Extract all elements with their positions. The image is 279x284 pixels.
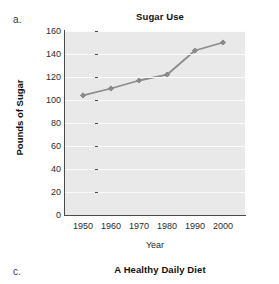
y-tick-label: 100: [35, 95, 61, 105]
x-tick-label: 2000: [206, 221, 240, 231]
y-tick-mark: [95, 169, 98, 170]
x-axis-title: Year: [65, 240, 245, 250]
y-tick-label: 80: [35, 118, 61, 128]
data-point-marker: [108, 86, 113, 91]
y-tick-label: 140: [35, 49, 61, 59]
gridline: [65, 123, 245, 124]
gridline: [65, 146, 245, 147]
chart-title: Sugar Use: [60, 11, 260, 22]
y-tick-mark: [95, 146, 98, 147]
y-tick-label: 160: [35, 26, 61, 36]
gridline: [65, 54, 245, 55]
y-tick-mark: [95, 123, 98, 124]
y-axis-title: Pounds of Sugar: [14, 63, 25, 173]
healthy-daily-diet-title: A Healthy Daily Diet: [60, 264, 260, 275]
gridline: [65, 31, 245, 32]
y-axis-line: [64, 30, 65, 216]
data-point-marker: [80, 93, 85, 98]
series-line-sugar-use: [83, 43, 223, 96]
y-tick-mark: [95, 100, 98, 101]
y-axis-ticks: 020406080100120140160: [33, 0, 61, 250]
y-tick-label: 40: [35, 164, 61, 174]
y-tick-label: 0: [35, 210, 61, 220]
y-tick-label: 120: [35, 72, 61, 82]
gridline: [65, 77, 245, 78]
y-tick-mark: [95, 215, 98, 216]
x-axis-line: [64, 215, 246, 216]
y-tick-mark: [95, 77, 98, 78]
gridline: [65, 169, 245, 170]
panel-letter-c: c.: [13, 266, 21, 277]
sugar-use-chart: Sugar Use 020406080100120140160 19501960…: [0, 0, 279, 250]
y-tick-label: 60: [35, 141, 61, 151]
y-tick-mark: [95, 31, 98, 32]
y-tick-mark: [95, 192, 98, 193]
plot-area: [65, 31, 245, 215]
data-point-marker: [136, 78, 141, 83]
y-tick-mark: [95, 54, 98, 55]
gridline: [65, 100, 245, 101]
y-tick-label: 20: [35, 187, 61, 197]
data-point-marker: [220, 40, 225, 45]
gridline: [65, 192, 245, 193]
